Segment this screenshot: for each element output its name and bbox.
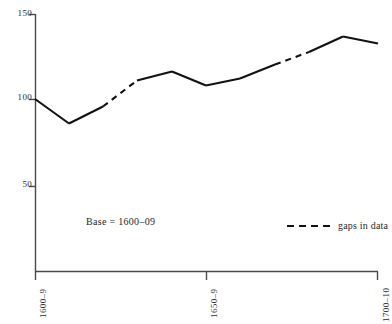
- y-axis-tick-label-100: 100: [6, 92, 32, 102]
- chart-legend: gaps in data: [287, 220, 388, 231]
- data-line-dashed-gaps: [103, 52, 309, 107]
- y-axis-tick-label-150: 150: [6, 8, 32, 18]
- x-axis-tick-label-1650: 1650–9: [209, 289, 219, 318]
- y-axis-tick-label-50: 50: [6, 179, 32, 189]
- x-axis-tick-label-1700: 1700–10: [381, 288, 391, 322]
- chart-container: 150 100 50 1600–9 1650–9 1700–10 Base = …: [0, 0, 392, 324]
- legend-dashed-line-icon: [287, 222, 331, 230]
- legend-label-gaps-in-data: gaps in data: [338, 220, 388, 231]
- line-chart-plot: [0, 0, 392, 324]
- data-line-solid: [35, 37, 378, 124]
- x-axis-tick-label-1600: 1600–9: [38, 289, 48, 318]
- base-annotation: Base = 1600–09: [86, 216, 155, 227]
